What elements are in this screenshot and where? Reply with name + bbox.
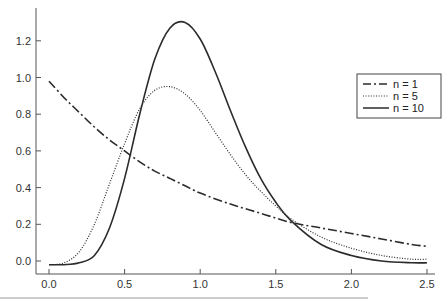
y-tick-label: 0.2 [16,218,31,230]
x-tick-label: 1.5 [268,278,283,290]
legend-label-n1: n = 1 [393,78,418,90]
x-tick-label: 0.0 [41,278,56,290]
series-layer [49,22,427,265]
y-tick-label: 0.6 [16,145,31,157]
y-axis-ticks: 0.00.20.40.60.81.01.2 [16,35,41,267]
legend: n = 1 n = 5 n = 10 [357,74,441,118]
x-tick-label: 2.0 [344,278,359,290]
x-tick-label: 0.5 [117,278,132,290]
legend-label-n10: n = 10 [393,102,424,114]
plot-area: 0.00.20.40.60.81.01.2 0.00.51.01.52.02.5 [16,8,435,290]
y-tick-label: 1.0 [16,72,31,84]
x-axis-ticks: 0.00.51.01.52.02.5 [41,269,434,290]
legend-label-n5: n = 5 [393,90,418,102]
series-line-n10 [49,22,427,265]
y-tick-label: 0.4 [16,182,31,194]
x-tick-label: 1.0 [193,278,208,290]
y-tick-label: 1.2 [16,35,31,47]
chart: 0.00.20.40.60.81.01.2 0.00.51.01.52.02.5… [0,0,448,301]
y-tick-label: 0.8 [16,108,31,120]
y-tick-label: 0.0 [16,255,31,267]
x-tick-label: 2.5 [419,278,434,290]
